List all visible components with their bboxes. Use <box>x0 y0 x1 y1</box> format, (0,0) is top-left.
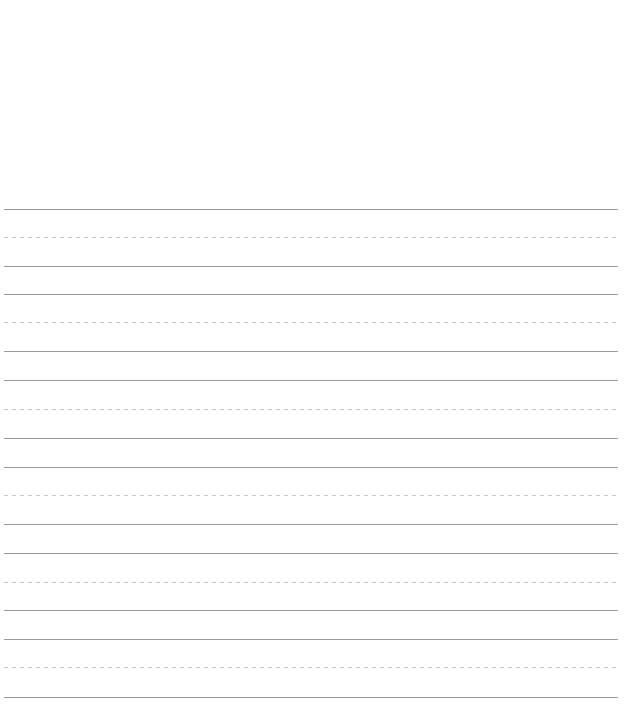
line-group-1-mid-dashed-rule <box>4 237 618 238</box>
line-group-1-top-solid-rule <box>4 209 618 210</box>
practice-sheet <box>0 0 631 708</box>
line-group-2-base-solid-rule <box>4 351 618 352</box>
line-group-5-mid-dashed-rule <box>4 582 618 583</box>
line-group-2-mid-dashed-rule <box>4 322 618 323</box>
blank-header-area <box>0 0 631 200</box>
line-group-6-base-solid-rule <box>4 697 618 698</box>
line-group-3-base-solid-rule <box>4 438 618 439</box>
line-group-4-base-solid-rule <box>4 524 618 525</box>
line-group-2-top-solid-rule <box>4 294 618 295</box>
line-group-4-top-solid-rule <box>4 467 618 468</box>
line-group-5-top-solid-rule <box>4 553 618 554</box>
line-group-6-mid-dashed-rule <box>4 667 618 668</box>
line-group-5-base-solid-rule <box>4 610 618 611</box>
line-group-6-top-solid-rule <box>4 639 618 640</box>
line-group-3-mid-dashed-rule <box>4 409 618 410</box>
line-group-1-base-solid-rule <box>4 266 618 267</box>
line-group-4-mid-dashed-rule <box>4 495 618 496</box>
line-group-3-top-solid-rule <box>4 380 618 381</box>
